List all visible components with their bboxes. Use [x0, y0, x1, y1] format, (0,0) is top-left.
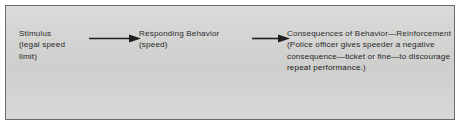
flow-stage-consequences: Consequences of Behavior—Reinforcement (… — [287, 28, 452, 73]
arrow-right-icon-one — [89, 34, 141, 43]
flow-row: Stimulus (legal speed limit) Responding … — [6, 6, 454, 119]
flow-stage-responding-behavior: Responding Behavior (speed) — [139, 28, 244, 51]
arrow-right-icon-two — [252, 34, 290, 43]
flow-stage-stimulus: Stimulus (legal speed limit) — [19, 28, 85, 62]
diagram-frame: Stimulus (legal speed limit) Responding … — [5, 5, 455, 120]
